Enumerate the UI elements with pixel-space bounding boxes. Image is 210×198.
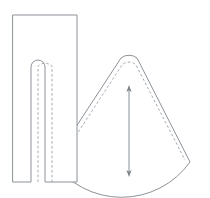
pattern-diagram-root xyxy=(0,0,210,198)
pattern-diagram-canvas xyxy=(0,0,210,198)
rectangle-piece-group xyxy=(13,15,77,182)
